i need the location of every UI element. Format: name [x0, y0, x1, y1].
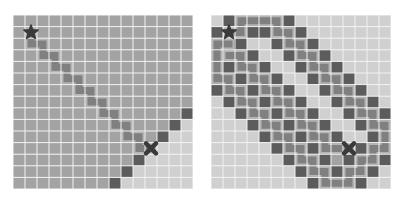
grid-cell [169, 38, 181, 50]
grid-cell [247, 143, 259, 155]
wall-cell [283, 119, 295, 131]
grid-cell [343, 15, 355, 27]
left-maze-panel [13, 15, 193, 189]
grid-cell [121, 177, 133, 189]
grid-cell [223, 177, 235, 189]
grid-cell [121, 154, 133, 166]
grid-cell [307, 15, 319, 27]
grid-cell [73, 96, 85, 108]
grid-cell [49, 96, 61, 108]
wall-cell [367, 166, 379, 178]
grid-cell [13, 38, 25, 50]
grid-cell [211, 15, 223, 27]
grid-cell [133, 27, 145, 39]
grid-cell [109, 38, 121, 50]
grid-cell [13, 61, 25, 73]
grid-cell [145, 131, 157, 143]
grid-cell [319, 15, 331, 27]
wall-cell [223, 61, 235, 73]
grid-cell [25, 85, 37, 97]
grid-cell [223, 166, 235, 178]
grid-cell [73, 61, 85, 73]
grid-cell [49, 154, 61, 166]
grid-cell [133, 177, 145, 189]
grid-cell [73, 15, 85, 27]
grid-cell [379, 85, 391, 97]
wall-cell [307, 38, 319, 50]
grid-cell [145, 85, 157, 97]
grid-cell [85, 61, 97, 73]
grid-cell [109, 85, 121, 97]
grid-cell [343, 38, 355, 50]
grid-cell [145, 38, 157, 50]
grid-cell [109, 166, 121, 178]
wall-cell [319, 119, 331, 131]
grid-cell [169, 154, 181, 166]
grid-cell [169, 15, 181, 27]
grid-cell [37, 85, 49, 97]
wall-cell [271, 73, 283, 85]
grid-cell [145, 15, 157, 27]
grid-cell [145, 177, 157, 189]
grid-cell [379, 50, 391, 62]
wall-cell [283, 154, 295, 166]
wall-cell [211, 27, 223, 39]
grid-cell [85, 119, 97, 131]
grid-cell [133, 38, 145, 50]
grid-cell [61, 154, 73, 166]
grid-cell [283, 61, 295, 73]
grid-cell [109, 61, 121, 73]
grid-cell [181, 73, 193, 85]
grid-cell [109, 73, 121, 85]
grid-cell [157, 108, 169, 120]
wall-cell [319, 154, 331, 166]
grid-cell [157, 177, 169, 189]
grid-cell [85, 177, 97, 189]
grid-cell [25, 61, 37, 73]
grid-cell [37, 96, 49, 108]
grid-cell [49, 143, 61, 155]
grid-cell [181, 27, 193, 39]
grid-cell [169, 177, 181, 189]
wall-cell [379, 108, 391, 120]
grid-cell [223, 108, 235, 120]
grid-cell [145, 108, 157, 120]
grid-cell [61, 108, 73, 120]
grid-cell [367, 177, 379, 189]
grid-cell [13, 143, 25, 155]
grid-cell [367, 85, 379, 97]
grid-cell [37, 73, 49, 85]
grid-cell [379, 166, 391, 178]
wall-cell [259, 27, 271, 39]
grid-cell [73, 166, 85, 178]
grid-cell [211, 166, 223, 178]
grid-cell [49, 119, 61, 131]
wall-cell [319, 85, 331, 97]
grid-cell [97, 85, 109, 97]
grid-cell [331, 38, 343, 50]
grid-cell [61, 119, 73, 131]
grid-cell [235, 131, 247, 143]
grid-cell [73, 50, 85, 62]
grid-cell [133, 166, 145, 178]
grid-cell [49, 15, 61, 27]
grid-cell [85, 15, 97, 27]
grid-cell [169, 143, 181, 155]
grid-cell [133, 15, 145, 27]
grid-cell [37, 119, 49, 131]
grid-cell [235, 143, 247, 155]
grid-cell [181, 38, 193, 50]
wall-cell [307, 108, 319, 120]
grid-cell [367, 38, 379, 50]
wall-cell [247, 50, 259, 62]
grid-cell [181, 177, 193, 189]
grid-cell [271, 154, 283, 166]
grid-cell [157, 15, 169, 27]
grid-cell [247, 131, 259, 143]
wall-cell [271, 143, 283, 155]
wall-cell [331, 96, 343, 108]
wall-cell [169, 119, 181, 131]
grid-cell [121, 15, 133, 27]
grid-cell [211, 131, 223, 143]
wall-cell [259, 131, 271, 143]
